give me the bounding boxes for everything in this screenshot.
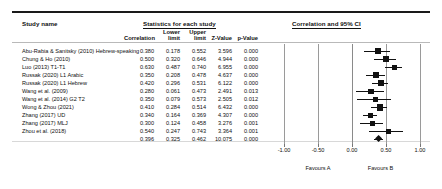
table-row: Zhou et al. (2018)0.5400.2470.7433.3640.… — [0, 127, 240, 135]
effect-marker — [368, 113, 374, 119]
z-cell: 2.491 — [206, 87, 232, 95]
z-cell: 4.307 — [206, 111, 232, 119]
table-row: Russak (2020) L1 Arabic0.3500.2080.4784.… — [0, 71, 240, 79]
correlation-cell: 0.340 — [124, 111, 154, 119]
z-cell: 3.596 — [206, 47, 232, 55]
table-row: Luo (2013) T1-T10.6300.4870.7406.9550.00… — [0, 63, 240, 71]
z-cell: 3.276 — [206, 119, 232, 127]
correlation-cell: 0.540 — [124, 127, 154, 135]
effect-marker — [383, 56, 388, 61]
study-name-cell: Abu-Rabia & Sanitsky (2010) Hebrew-speak… — [22, 47, 139, 55]
forest-plot-figure: Study name Statistics for each study Cor… — [0, 0, 442, 189]
p-cell: 0.001 — [234, 127, 258, 135]
statistics-table: Abu-Rabia & Sanitsky (2010) Hebrew-speak… — [0, 0, 240, 189]
p-cell: 0.000 — [234, 79, 258, 87]
lower-cell: 0.061 — [156, 87, 180, 95]
effect-marker — [370, 121, 376, 127]
study-name-cell: Zhang (2017) MLJ — [22, 119, 68, 127]
lower-cell: 0.164 — [156, 111, 180, 119]
upper-cell: 0.478 — [182, 71, 206, 79]
table-row: Wang et al. (2009)0.2800.0610.4732.4910.… — [0, 87, 240, 95]
z-cell: 2.505 — [206, 95, 232, 103]
upper-cell: 0.646 — [182, 55, 206, 63]
lower-cell: 0.487 — [156, 63, 180, 71]
correlation-cell: 0.420 — [124, 79, 154, 87]
z-cell: 3.364 — [206, 127, 232, 135]
p-cell: 0.013 — [234, 87, 258, 95]
axis-tick-label: 1.00 — [405, 147, 435, 153]
correlation-cell: 0.410 — [124, 103, 154, 111]
upper-cell: 0.462 — [182, 135, 206, 143]
lower-cell: 0.320 — [156, 55, 180, 63]
effect-marker — [373, 72, 379, 78]
summary-diamond — [375, 135, 382, 142]
correlation-cell: 0.280 — [124, 87, 154, 95]
effect-marker — [378, 80, 384, 86]
upper-cell: 0.473 — [182, 87, 206, 95]
study-name-cell: Luo (2013) T1-T1 — [22, 63, 65, 71]
study-name-cell: Russak (2020) L1 Hebrew — [22, 79, 87, 87]
axis-tick-label: 0.50 — [371, 147, 401, 153]
effect-marker — [392, 65, 397, 70]
study-name-cell: Wang et al. (2009) — [22, 87, 68, 95]
correlation-cell: 0.396 — [124, 135, 154, 143]
lower-cell: 0.079 — [156, 95, 180, 103]
lower-cell: 0.178 — [156, 47, 180, 55]
p-cell: 0.000 — [234, 111, 258, 119]
summary-row: 0.3960.3250.46210.0750.000 — [0, 135, 240, 143]
z-cell: 6.432 — [206, 103, 232, 111]
effect-marker — [375, 48, 380, 53]
effect-marker — [377, 104, 383, 110]
upper-cell: 0.458 — [182, 119, 206, 127]
p-cell: 0.000 — [234, 55, 258, 63]
study-name-cell: Zhang (2017) UD — [22, 111, 65, 119]
upper-cell: 0.552 — [182, 47, 206, 55]
table-row: Abu-Rabia & Sanitsky (2010) Hebrew-speak… — [0, 47, 240, 55]
axis-tick-label: -1.00 — [269, 147, 299, 153]
correlation-cell: 0.500 — [124, 55, 154, 63]
lower-cell: 0.208 — [156, 71, 180, 79]
correlation-cell: 0.350 — [124, 95, 154, 103]
p-cell: 0.001 — [234, 119, 258, 127]
lower-cell: 0.325 — [156, 135, 180, 143]
correlation-cell: 0.630 — [124, 63, 154, 71]
axis-gridline — [420, 44, 421, 144]
effect-marker — [368, 89, 373, 94]
z-cell: 4.944 — [206, 55, 232, 63]
table-row: Chung & Ho (2010)0.5000.3200.6464.9440.0… — [0, 55, 240, 63]
upper-cell: 0.743 — [182, 127, 206, 135]
p-cell: 0.000 — [234, 63, 258, 71]
p-cell: 0.000 — [234, 71, 258, 79]
lower-cell: 0.284 — [156, 103, 180, 111]
p-cell: 0.012 — [234, 95, 258, 103]
axis-gridline — [318, 44, 319, 144]
p-cell: 0.000 — [234, 135, 258, 143]
upper-cell: 0.740 — [182, 63, 206, 71]
axis-tick-label: -0.50 — [303, 147, 333, 153]
p-cell: 0.000 — [234, 103, 258, 111]
table-row: Wang et al. (2014) G2 T20.3500.0790.5732… — [0, 95, 240, 103]
table-row: Russak (2020) L1 Hebrew0.4200.2960.5316.… — [0, 79, 240, 87]
table-row: Zhang (2017) UD0.3400.1640.3694.3070.000 — [0, 111, 240, 119]
lower-cell: 0.296 — [156, 79, 180, 87]
z-cell: 6.955 — [206, 63, 232, 71]
correlation-cell: 0.380 — [124, 47, 154, 55]
study-name-cell: Russak (2020) L1 Arabic — [22, 71, 83, 79]
study-name-cell: Zhou et al. (2018) — [22, 127, 66, 135]
axis-tick-label: 0.00 — [337, 147, 367, 153]
study-name-cell: Wang et al. (2014) G2 T2 — [22, 95, 85, 103]
z-cell: 6.122 — [206, 79, 232, 87]
favours-right-label: Favours B — [351, 165, 411, 171]
table-row: Zhang (2017) MLJ0.3000.1240.4583.2760.00… — [0, 119, 240, 127]
axis-gridline — [284, 44, 285, 144]
upper-cell: 0.514 — [182, 103, 206, 111]
axis-gridline — [352, 44, 353, 144]
lower-cell: 0.247 — [156, 127, 180, 135]
effect-marker — [373, 97, 378, 102]
table-row: Wong & Zhou (2021)0.4100.2840.5146.4320.… — [0, 103, 240, 111]
favours-left-label: Favours A — [288, 165, 348, 171]
p-cell: 0.000 — [234, 47, 258, 55]
correlation-cell: 0.300 — [124, 119, 154, 127]
z-cell: 4.637 — [206, 71, 232, 79]
forest-plot-panel: -1.00-0.500.000.501.00Favours AFavours B — [262, 0, 442, 189]
